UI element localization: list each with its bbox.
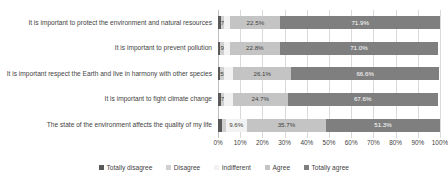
- category-label: The state of the environment affects the…: [0, 119, 212, 132]
- bar-segment-label: 67.6%: [354, 96, 372, 102]
- category-label: It is important respect the Earth and li…: [0, 67, 212, 80]
- bar-row: 1.5%26.1%66.6%: [218, 67, 440, 80]
- axis-tick-label: 90%: [411, 139, 424, 146]
- bar-segment: 24.7%: [233, 93, 288, 106]
- bar-segment-label: 22.8%: [246, 45, 264, 51]
- bar-segment-label: 71.9%: [351, 20, 369, 26]
- bar-row: 9.6%35.7%51.3%: [218, 119, 440, 132]
- bar-segment: 67.6%: [288, 93, 438, 106]
- axis-tick-label: 100%: [432, 139, 448, 146]
- stacked-bar-chart: It is important to protect the environme…: [0, 0, 448, 183]
- bar-segment: [224, 93, 232, 106]
- category-label: It is important to fight climate change: [0, 93, 212, 106]
- legend-label: Disagree: [174, 164, 200, 171]
- legend-label: Totally disagree: [107, 164, 153, 171]
- bar-segment-label: 26.1%: [253, 71, 271, 77]
- bar-segment-label: 35.7%: [278, 122, 296, 128]
- value-axis: 0%10%20%30%40%50%60%70%80%90%100%: [218, 139, 440, 151]
- category-label: It is important to protect the environme…: [0, 16, 212, 29]
- axis-tick-label: 10%: [234, 139, 247, 146]
- legend-label: Agree: [272, 164, 290, 171]
- bar-segment-label: 66.6%: [356, 71, 374, 77]
- bar-segment-label: 9.6%: [229, 122, 243, 128]
- bar-row: 1.7%24.7%67.6%: [218, 93, 440, 106]
- bar-segment: 71.0%: [280, 42, 438, 55]
- legend-swatch-icon: [265, 165, 270, 170]
- legend: Totally disagreeDisagreeIndifferentAgree…: [0, 164, 448, 171]
- axis-tick-label: 40%: [300, 139, 313, 146]
- bar-segment: [224, 67, 234, 80]
- bar-segment: 22.8%: [230, 42, 281, 55]
- legend-swatch-icon: [214, 165, 219, 170]
- legend-label: Indifferent: [222, 164, 251, 171]
- axis-tick-label: 50%: [323, 139, 336, 146]
- axis-tick-label: 70%: [367, 139, 380, 146]
- bar-row: 1.7%22.5%71.9%: [218, 16, 440, 29]
- bar-segment-label: 22.5%: [247, 20, 265, 26]
- bar-segment-label: 71.0%: [350, 45, 368, 51]
- bar-rows: 1.7%22.5%71.9%1.9%22.8%71.0%1.5%26.1%66.…: [218, 10, 440, 138]
- axis-tick-label: 20%: [256, 139, 269, 146]
- axis-tick-label: 30%: [278, 139, 291, 146]
- legend-item[interactable]: Agree: [265, 164, 290, 171]
- bar-segment: 71.9%: [280, 16, 440, 29]
- gridline: [440, 10, 441, 138]
- legend-item[interactable]: Totally agree: [304, 164, 349, 171]
- bar-segment: 26.1%: [233, 67, 291, 80]
- bar-row: 1.9%22.8%71.0%: [218, 42, 440, 55]
- bar-segment: 9.6%: [226, 119, 247, 132]
- axis-tick-label: 60%: [345, 139, 358, 146]
- category-label: It is important to prevent pollution: [0, 42, 212, 55]
- axis-tick-label: 80%: [389, 139, 402, 146]
- category-axis: It is important to protect the environme…: [0, 10, 212, 138]
- axis-tick-label: 0%: [213, 139, 222, 146]
- legend-swatch-icon: [99, 165, 104, 170]
- legend-swatch-icon: [304, 165, 309, 170]
- bar-segment: 35.7%: [247, 119, 326, 132]
- legend-swatch-icon: [166, 165, 171, 170]
- bar-segment: 22.5%: [230, 16, 280, 29]
- legend-item[interactable]: Disagree: [166, 164, 200, 171]
- bar-segment: 66.6%: [291, 67, 439, 80]
- legend-label: Totally agree: [312, 164, 349, 171]
- bar-segment: 51.3%: [326, 119, 440, 132]
- bar-segment-label: 24.7%: [251, 96, 269, 102]
- bar-segment-label: 51.3%: [374, 122, 392, 128]
- plot-area: 1.7%22.5%71.9%1.9%22.8%71.0%1.5%26.1%66.…: [218, 10, 440, 138]
- legend-item[interactable]: Totally disagree: [99, 164, 152, 171]
- legend-item[interactable]: Indifferent: [214, 164, 251, 171]
